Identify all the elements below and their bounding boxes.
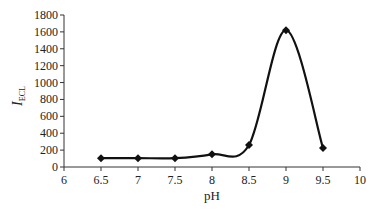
x-tick-label: 8 xyxy=(209,173,215,187)
diamond-marker-icon xyxy=(97,154,105,162)
data-line xyxy=(101,30,323,158)
y-axis-ticks: 020040060080010001200140016001800 xyxy=(34,8,64,174)
y-tick-label: 600 xyxy=(40,109,58,123)
y-tick-label: 1000 xyxy=(34,76,58,90)
x-axis-ticks: 66.577.588.599.510 xyxy=(61,167,366,187)
y-tick-label: 400 xyxy=(40,126,58,140)
diamond-marker-icon xyxy=(171,154,179,162)
y-tick-label: 800 xyxy=(40,92,58,106)
y-tick-label: 1200 xyxy=(34,59,58,73)
y-tick-label: 200 xyxy=(40,143,58,157)
y-tick-label: 0 xyxy=(52,160,58,174)
x-tick-label: 10 xyxy=(354,173,366,187)
diamond-marker-icon xyxy=(319,144,327,152)
x-tick-label: 7.5 xyxy=(168,173,183,187)
y-axis-label: IECL xyxy=(10,86,27,107)
diamond-marker-icon xyxy=(134,154,142,162)
x-tick-label: 8.5 xyxy=(242,173,257,187)
x-axis-label: pH xyxy=(204,188,220,203)
y-tick-label: 1600 xyxy=(34,25,58,39)
y-tick-label: 1400 xyxy=(34,42,58,56)
line-chart: 020040060080010001200140016001800 66.577… xyxy=(0,0,380,212)
x-tick-label: 7 xyxy=(135,173,141,187)
data-markers xyxy=(97,26,327,162)
x-tick-label: 6 xyxy=(61,173,67,187)
y-tick-label: 1800 xyxy=(34,8,58,22)
x-tick-label: 6.5 xyxy=(94,173,109,187)
x-tick-label: 9.5 xyxy=(316,173,331,187)
x-tick-label: 9 xyxy=(283,173,289,187)
diamond-marker-icon xyxy=(208,150,216,158)
